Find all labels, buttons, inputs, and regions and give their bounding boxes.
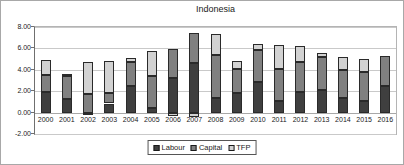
x-tick-label: 2005 bbox=[141, 116, 162, 123]
bar-segment-capital bbox=[189, 33, 199, 63]
bar-segment-tfp bbox=[168, 113, 178, 116]
plot-area: 2000200120022003200420052006200720082009… bbox=[34, 26, 397, 135]
legend-item: TFP bbox=[228, 143, 250, 152]
x-tick-label: 2002 bbox=[77, 116, 98, 123]
legend-swatch bbox=[191, 145, 197, 151]
gridline bbox=[35, 27, 396, 28]
bar-segment-tfp bbox=[126, 58, 136, 62]
bar-segment-capital bbox=[147, 76, 157, 108]
bar-segment-tfp bbox=[211, 34, 221, 55]
y-tick-label: 6.00 bbox=[1, 44, 31, 51]
bar-segment-capital bbox=[83, 94, 93, 112]
x-tick-label: 2011 bbox=[269, 116, 290, 123]
x-tick-label: 2001 bbox=[56, 116, 77, 123]
y-axis: 8.006.004.002.000.00-2.00 bbox=[1, 26, 31, 135]
y-tick-label: -2.00 bbox=[1, 130, 31, 137]
bar-segment-tfp bbox=[147, 51, 157, 76]
x-tick-label: 2016 bbox=[375, 116, 396, 123]
legend-label: TFP bbox=[236, 143, 250, 152]
bar-segment-tfp bbox=[232, 61, 242, 68]
bar-segment-labour bbox=[104, 104, 114, 113]
bar-segment-capital bbox=[211, 55, 221, 98]
bar-segment-labour bbox=[295, 92, 305, 112]
x-tick-label: 2003 bbox=[99, 116, 120, 123]
x-tick-label: 2008 bbox=[205, 116, 226, 123]
bar-segment-capital bbox=[168, 49, 178, 78]
bar-segment-labour bbox=[147, 108, 157, 113]
x-tick-label: 2012 bbox=[290, 116, 311, 123]
x-tick-label: 2009 bbox=[226, 116, 247, 123]
bar-segment-labour bbox=[211, 98, 221, 112]
bar-segment-capital bbox=[317, 57, 327, 89]
y-tick-label: 2.00 bbox=[1, 87, 31, 94]
x-tick-label: 2014 bbox=[332, 116, 353, 123]
legend-label: Capital bbox=[199, 143, 222, 152]
bar-segment-labour bbox=[232, 93, 242, 112]
bar-segment-tfp bbox=[83, 62, 93, 95]
legend-swatch bbox=[154, 145, 160, 151]
bar-segment-tfp bbox=[253, 44, 263, 50]
bar-segment-tfp bbox=[189, 113, 199, 118]
bar-segment-tfp bbox=[295, 46, 305, 62]
bar-segment-labour bbox=[83, 113, 93, 116]
bar-segment-labour bbox=[168, 78, 178, 112]
bar-segment-labour bbox=[338, 98, 348, 112]
chart: Indonesia 8.006.004.002.000.00-2.00 2000… bbox=[0, 0, 404, 165]
y-tick-mark bbox=[31, 90, 34, 91]
x-tick-label: 2006 bbox=[162, 116, 183, 123]
bar-segment-capital bbox=[104, 93, 114, 103]
bar-segment-labour bbox=[359, 101, 369, 113]
bar-segment-labour bbox=[253, 82, 263, 113]
bar-segment-capital bbox=[380, 56, 390, 86]
bar-segment-labour bbox=[189, 63, 199, 112]
bar-segment-capital bbox=[253, 50, 263, 82]
x-tick-label: 2013 bbox=[311, 116, 332, 123]
y-tick-label: 4.00 bbox=[1, 66, 31, 73]
legend-label: Labour bbox=[162, 143, 185, 152]
bar-segment-labour bbox=[62, 99, 72, 113]
y-tick-mark bbox=[31, 112, 34, 113]
y-tick-label: 0.00 bbox=[1, 109, 31, 116]
bar-segment-labour bbox=[126, 86, 136, 112]
bar-segment-tfp bbox=[338, 57, 348, 70]
bar-segment-tfp bbox=[359, 59, 369, 73]
x-tick-label: 2004 bbox=[120, 116, 141, 123]
bar-segment-capital bbox=[274, 69, 284, 101]
bar-segment-capital bbox=[41, 75, 51, 92]
y-tick-mark bbox=[31, 133, 34, 134]
bar-segment-capital bbox=[338, 70, 348, 98]
legend: LabourCapitalTFP bbox=[148, 140, 257, 155]
bar-segment-capital bbox=[359, 72, 369, 100]
y-tick-mark bbox=[31, 47, 34, 48]
y-tick-label: 8.00 bbox=[1, 23, 31, 30]
x-tick-label: 2015 bbox=[354, 116, 375, 123]
x-tick-label: 2000 bbox=[35, 116, 56, 123]
bar-segment-labour bbox=[380, 86, 390, 112]
gridline bbox=[35, 134, 396, 135]
legend-swatch bbox=[228, 145, 234, 151]
bar-segment-tfp bbox=[41, 60, 51, 75]
y-tick-mark bbox=[31, 26, 34, 27]
bar-segment-labour bbox=[274, 101, 284, 113]
bar-segment-labour bbox=[41, 92, 51, 112]
bar-segment-capital bbox=[62, 76, 72, 98]
bar-segment-tfp bbox=[104, 61, 114, 93]
legend-item: Capital bbox=[191, 143, 222, 152]
chart-title: Indonesia bbox=[34, 4, 397, 14]
bar-segment-tfp bbox=[62, 74, 72, 77]
legend-item: Labour bbox=[154, 143, 185, 152]
bar-segment-labour bbox=[317, 90, 327, 113]
x-tick-label: 2010 bbox=[247, 116, 268, 123]
y-tick-mark bbox=[31, 69, 34, 70]
bar-segment-capital bbox=[232, 69, 242, 94]
bar-segment-tfp bbox=[274, 45, 284, 69]
bar-segment-tfp bbox=[317, 53, 327, 58]
bar-segment-capital bbox=[126, 62, 136, 86]
bar-segment-capital bbox=[295, 62, 305, 92]
